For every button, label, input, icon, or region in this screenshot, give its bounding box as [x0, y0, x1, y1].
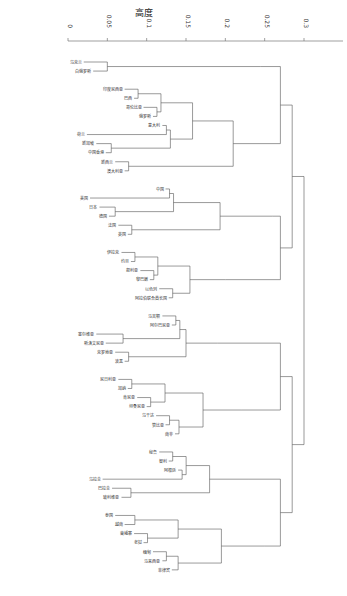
dendrogram-link	[161, 103, 193, 139]
dendrogram-link	[280, 105, 292, 248]
dendrogram-link	[165, 393, 203, 427]
leaf-label: 叙利亚	[126, 267, 138, 273]
x-axis-tick-label: 0.2	[224, 18, 231, 28]
leaf-label: 老挝	[134, 539, 142, 545]
dendrogram-link	[115, 194, 173, 212]
leaf-label: 约旦	[121, 258, 129, 264]
leaf-label: 克罗地亚	[97, 349, 113, 355]
leaf-label: 加纳	[118, 385, 126, 391]
dendrogram-plot: 00.050.10.150.20.250.3乌克兰白俄罗斯印度尼西亚巴西哥伦比亚…	[0, 0, 347, 596]
dendrogram-link	[178, 529, 221, 563]
leaf-label: 日本	[89, 204, 97, 210]
leaf-label: 塞尔维亚	[78, 331, 94, 337]
leaf-label: 白俄罗斯	[75, 68, 91, 74]
leaf-label: 缅甸	[143, 549, 151, 555]
leaf-label: 中国	[156, 186, 164, 192]
leaf-label: 马其顿	[148, 313, 160, 319]
leaf-label: 黎巴嫩	[136, 276, 148, 282]
leaf-label: 美国	[80, 195, 88, 201]
leaf-label: 巴拉圭	[98, 485, 110, 491]
dendrogram-link	[132, 203, 220, 230]
leaf-label: 坦桑尼亚	[129, 403, 145, 409]
dendrogram-link	[158, 266, 190, 293]
leaf-label: 南非	[165, 431, 173, 437]
leaf-label: 柬埔寨	[120, 530, 132, 536]
leaf-label: 泰国	[105, 512, 113, 518]
leaf-label: 阿尔巴尼亚	[150, 322, 170, 328]
leaf-label: 澳大利亚	[107, 168, 123, 174]
leaf-label: 智利	[159, 458, 167, 464]
dendrogram-link	[233, 67, 280, 144]
leaf-label: 波黑	[115, 358, 123, 364]
dendrogram-link	[132, 384, 165, 402]
leaf-label: 乌拉圭	[89, 476, 101, 482]
leaf-label: 荷兰	[77, 131, 85, 137]
dendrogram-link	[292, 176, 304, 444]
leaf-label: 以色列	[145, 286, 157, 292]
x-axis-tick-label: 0.05	[106, 15, 113, 29]
dendrogram-link	[217, 343, 280, 410]
leaf-label: 乌干达	[142, 412, 154, 418]
leaf-label: 伊拉克	[107, 249, 119, 255]
dendrogram-chart: 高度 00.050.10.150.20.250.3乌克兰白俄罗斯印度尼西亚巴西哥…	[0, 0, 347, 596]
leaf-label: 秘鲁	[149, 449, 157, 455]
leaf-label: 英国	[118, 231, 126, 237]
leaf-label: 斯洛文尼亚	[84, 340, 104, 346]
x-axis-tick-label: 0	[67, 24, 74, 28]
dendrogram-link	[129, 121, 234, 166]
x-axis-tick-label: 0.3	[303, 18, 310, 28]
x-axis-tick-label: 0.25	[264, 15, 271, 29]
dendrogram-link	[111, 130, 170, 148]
dendrogram-link	[129, 330, 186, 357]
dendrogram-link	[135, 520, 178, 538]
leaf-label: 意大利	[148, 122, 160, 128]
leaf-label: 德国	[99, 213, 107, 219]
leaf-label: 巴西	[124, 96, 132, 101]
leaf-label: 法国	[108, 222, 116, 228]
x-axis-tick-label: 0.15	[185, 15, 192, 29]
leaf-label: 乌克兰	[70, 59, 82, 65]
axis-title: 高度	[135, 6, 153, 19]
leaf-label: 尼日利亚	[100, 376, 116, 382]
leaf-label: 新加坡	[82, 140, 94, 146]
leaf-label: 印度尼西亚	[103, 86, 123, 92]
leaf-label: 越南	[115, 521, 123, 527]
leaf-label: 阿拉伯联合酋长国	[135, 295, 167, 301]
leaf-label: 肯尼亚	[123, 394, 135, 400]
leaf-label: 中国香港	[88, 149, 104, 155]
leaf-label: 马来西亚	[144, 558, 160, 564]
leaf-label: 阿根廷	[164, 467, 176, 473]
leaf-label: 哥伦比亚	[126, 104, 142, 110]
leaf-label: 菲律宾	[158, 567, 170, 573]
leaf-label: 俄罗斯	[139, 113, 151, 119]
leaf-label: 玻利维亚	[103, 494, 119, 500]
x-axis-tick-label: 0.1	[146, 18, 153, 28]
dendrogram-link	[280, 377, 292, 513]
dendrogram-link	[249, 479, 280, 546]
dendrogram-link	[225, 216, 280, 279]
leaf-label: 赞比亚	[152, 422, 164, 428]
leaf-label: 新西兰	[101, 159, 113, 165]
